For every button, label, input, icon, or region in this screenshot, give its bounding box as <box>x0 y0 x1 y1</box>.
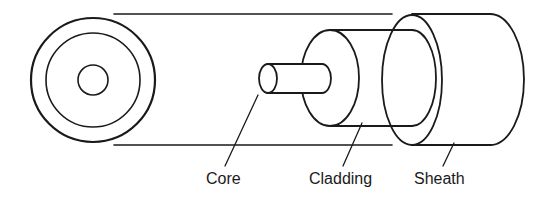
cladding-label: Cladding <box>309 171 372 187</box>
cable-drawing <box>0 0 552 197</box>
core-leader-line <box>225 95 258 166</box>
end-view-sheath-circle <box>31 18 155 142</box>
sheath-label: Sheath <box>414 171 465 187</box>
end-view-cladding-circle <box>46 33 140 127</box>
end-view <box>31 18 155 142</box>
sheath-leader-line <box>443 143 454 166</box>
cable-diagram: Core Cladding Sheath <box>0 0 552 197</box>
end-view-core-circle <box>78 65 108 95</box>
core-cylinder <box>259 64 331 93</box>
core-label: Core <box>206 171 241 187</box>
